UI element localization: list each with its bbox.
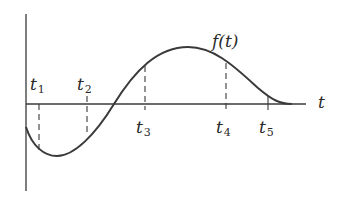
tick-label-t3-sub: 3 xyxy=(144,126,151,139)
tick-label-t4: t4 xyxy=(216,119,231,138)
plot-canvas xyxy=(0,0,342,198)
tick-label-t2-name: t xyxy=(77,74,84,94)
tick-label-t5-name: t xyxy=(259,117,266,137)
tick-label-t1-sub: 1 xyxy=(38,83,45,96)
tick-label-t2: t2 xyxy=(77,76,92,95)
tick-label-t4-name: t xyxy=(216,117,223,137)
curve-label: f(t) xyxy=(212,33,238,50)
tick-label-t4-sub: 4 xyxy=(224,126,231,139)
tick-label-t1: t1 xyxy=(30,76,45,95)
axis-label-t: t xyxy=(318,94,325,111)
tick-label-t5: t5 xyxy=(259,119,274,138)
tick-label-t3: t3 xyxy=(136,119,151,138)
tick-label-t2-sub: 2 xyxy=(85,83,92,96)
tick-label-t3-name: t xyxy=(136,117,143,137)
tick-label-t1-name: t xyxy=(30,74,37,94)
curve-f-of-t xyxy=(26,47,292,156)
tick-label-t5-sub: 5 xyxy=(267,126,274,139)
function-plot: f(t) t t1 t2 t3 t4 t5 xyxy=(0,0,342,198)
